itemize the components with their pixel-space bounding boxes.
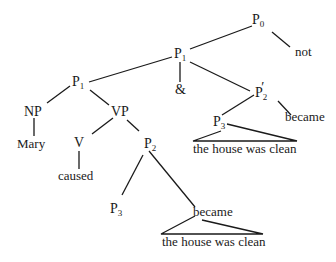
node-v: V [74,135,84,150]
edge-vp-v [92,118,113,134]
tree-edges [34,26,297,234]
edge-p0-p1 [190,26,252,49]
leaf-not: not [295,44,312,59]
leaf-became-right: became [285,109,325,124]
node-p2: P2 [144,136,156,153]
node-p0: P0 [252,12,265,29]
edge-p1-p2prime [190,62,250,91]
leaf-clause-left: the house was clean [162,234,266,249]
node-p1-left: P1 [72,74,84,91]
node-vp: VP [111,104,129,119]
node-ampersand: & [175,82,186,97]
node-p2-prime: P2′ [255,80,267,102]
edge-vp-p2 [127,120,139,131]
edge-p0-not [272,32,290,47]
node-p1-top: P1 [174,46,186,63]
node-p3-left: P3 [110,201,123,218]
edge-p1left-np [47,86,70,103]
tree-labels: P0 not P1 & P2′ P3 became the house was … [17,12,325,249]
edge-p1-p1left [89,57,172,82]
edge-p1left-vp [90,90,109,105]
node-p3-right: P3 [213,114,226,131]
triangle-clause-right [193,124,297,141]
edge-p2prime-p3 [222,95,254,115]
leaf-became-left: became [193,204,233,219]
leaf-caused: caused [58,168,94,183]
leaf-clause-right: the house was clean [193,141,297,156]
leaf-mary: Mary [17,136,46,151]
syntax-tree-diagram: P0 not P1 & P2′ P3 became the house was … [0,0,336,262]
node-np: NP [24,104,42,119]
edge-p2-became [149,151,195,207]
edge-p2-p3 [122,155,143,195]
